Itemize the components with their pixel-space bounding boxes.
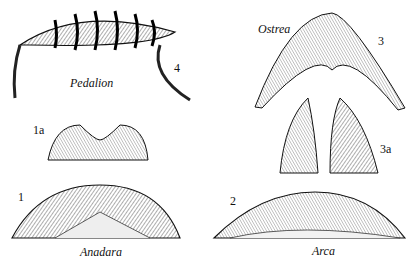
panel-number-label: 3a	[380, 142, 391, 157]
panel-number-label: 1	[18, 190, 24, 205]
genus-label: Arca	[312, 244, 335, 259]
panel-number-label: 2	[230, 194, 236, 209]
shell-illustration-plate	[0, 0, 414, 265]
anadara-juvenile-drawing	[48, 125, 148, 160]
panel-number-label: 4	[174, 61, 180, 76]
anadara-shell-drawing	[12, 185, 180, 238]
ostrea-valves-drawing	[280, 98, 378, 173]
genus-label: Pedalion	[70, 76, 113, 91]
arca-shell-drawing	[214, 192, 405, 238]
panel-number-label: 3	[378, 34, 384, 49]
panel-number-label: 1a	[33, 123, 44, 138]
genus-label: Ostrea	[258, 22, 290, 37]
genus-label: Anadara	[80, 245, 122, 260]
